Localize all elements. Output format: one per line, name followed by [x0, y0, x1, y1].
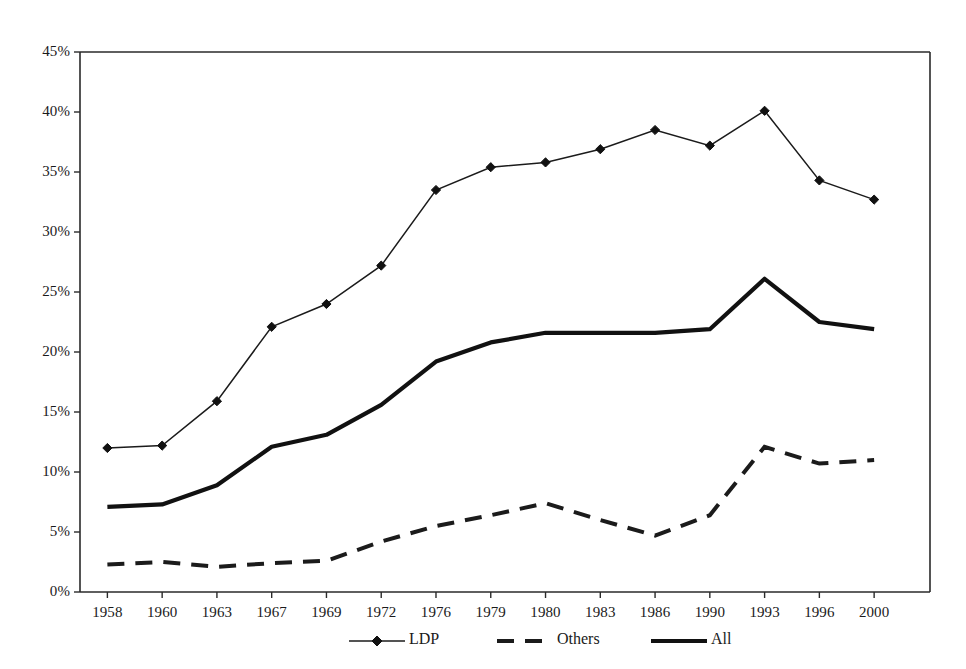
- x-axis-tick-label: 1958: [77, 604, 137, 621]
- data-point-marker-ldp: [596, 145, 605, 154]
- x-axis-tick-label: 1993: [735, 604, 795, 621]
- x-axis-tick-label: 1986: [625, 604, 685, 621]
- y-axis-tick-label: 25%: [20, 283, 70, 300]
- x-axis-tick-label: 1983: [570, 604, 630, 621]
- x-axis-ticks: [107, 592, 874, 598]
- data-point-marker-ldp: [541, 158, 550, 167]
- legend-label-all: All: [711, 630, 731, 648]
- series-line-others: [107, 447, 874, 567]
- x-axis-tick-label: 1979: [461, 604, 521, 621]
- data-point-marker-ldp: [705, 141, 714, 150]
- x-axis-tick-label: 1969: [296, 604, 356, 621]
- x-axis-tick-label: 1972: [351, 604, 411, 621]
- chart-figure: 0%5%10%15%20%25%30%35%40%45% 19581960196…: [0, 0, 966, 669]
- y-axis-tick-label: 35%: [20, 163, 70, 180]
- legend-label-ldp: LDP: [409, 630, 439, 648]
- x-axis-tick-label: 1980: [516, 604, 576, 621]
- data-point-marker-ldp: [322, 299, 331, 308]
- legend-glyphs: [349, 636, 707, 646]
- data-point-marker-ldp: [870, 195, 879, 204]
- chart-series-group: [103, 106, 879, 567]
- legend-marker-diamond-icon: [372, 636, 382, 646]
- x-axis-tick-label: 1967: [242, 604, 302, 621]
- y-axis-tick-label: 45%: [20, 43, 70, 60]
- y-axis-tick-label: 15%: [20, 403, 70, 420]
- y-axis-tick-label: 20%: [20, 343, 70, 360]
- y-axis-tick-label: 0%: [20, 583, 70, 600]
- data-point-marker-ldp: [486, 163, 495, 172]
- data-point-marker-ldp: [103, 443, 112, 452]
- x-axis-tick-label: 1976: [406, 604, 466, 621]
- x-axis-tick-label: 2000: [844, 604, 904, 621]
- y-axis-tick-label: 10%: [20, 463, 70, 480]
- legend-label-others: Others: [557, 630, 600, 648]
- data-point-marker-ldp: [650, 125, 659, 134]
- x-axis-tick-label: 1963: [187, 604, 247, 621]
- line-chart-plot: [0, 0, 966, 669]
- y-axis-tick-label: 30%: [20, 223, 70, 240]
- x-axis-tick-label: 1960: [132, 604, 192, 621]
- x-axis-tick-label: 1996: [789, 604, 849, 621]
- y-axis-tick-label: 40%: [20, 103, 70, 120]
- series-line-ldp: [107, 111, 874, 448]
- x-axis-tick-label: 1990: [680, 604, 740, 621]
- y-axis-tick-label: 5%: [20, 523, 70, 540]
- y-axis-ticks: [74, 52, 80, 592]
